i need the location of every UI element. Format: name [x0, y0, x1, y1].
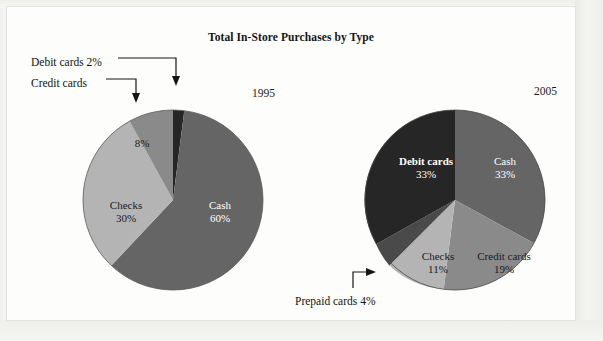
- slice-name-credit-cards-2005: Credit cards: [465, 250, 543, 263]
- leader-line-credit-cards: [106, 79, 136, 95]
- callout-label-credit-cards-1995: Credit cards: [31, 77, 87, 89]
- slice-label-checks-1995: Checks 30%: [95, 199, 157, 225]
- leader-line-prepaid-cards: [353, 272, 368, 288]
- slice-name-cash-1995: Cash: [192, 199, 248, 212]
- slice-value-cash-1995: 60%: [192, 212, 248, 225]
- slice-value-debit-cards-2005: 33%: [386, 168, 466, 181]
- slice-value-credit-cards-2005: 19%: [465, 263, 543, 276]
- leader-arrowhead-debit-cards: [172, 76, 180, 86]
- leader-line-debit-cards: [118, 58, 176, 78]
- slice-label-cash-2005: Cash 33%: [477, 155, 533, 181]
- slice-label-debit-cards-2005: Debit cards 33%: [386, 155, 466, 181]
- slice-label-checks-2005: Checks 11%: [408, 250, 468, 276]
- screenshot-root: Total In-Store Purchases by Type: [0, 0, 603, 341]
- document-page: Total In-Store Purchases by Type: [7, 7, 575, 320]
- year-label-2005: 2005: [534, 85, 557, 97]
- slice-name-checks-2005: Checks: [408, 250, 468, 263]
- slice-name-cash-2005: Cash: [477, 155, 533, 168]
- leader-arrowhead-credit-cards: [132, 93, 140, 103]
- leader-arrowhead-prepaid-cards: [366, 268, 376, 276]
- callout-label-prepaid-cards-2005: Prepaid cards 4%: [295, 295, 375, 307]
- year-label-1995: 1995: [252, 87, 275, 99]
- slice-value-checks-1995: 30%: [95, 212, 157, 225]
- slice-label-credit-cards-1995: 8%: [122, 137, 162, 150]
- slice-value-credit-cards-1995: 8%: [122, 137, 162, 150]
- slice-name-debit-cards-2005: Debit cards: [386, 155, 466, 168]
- slice-label-credit-cards-2005: Credit cards 19%: [465, 250, 543, 276]
- slice-name-checks-1995: Checks: [95, 199, 157, 212]
- slice-value-cash-2005: 33%: [477, 168, 533, 181]
- slice-label-cash-1995: Cash 60%: [192, 199, 248, 225]
- slice-value-checks-2005: 11%: [408, 263, 468, 276]
- callout-label-debit-cards-1995: Debit cards 2%: [31, 56, 102, 68]
